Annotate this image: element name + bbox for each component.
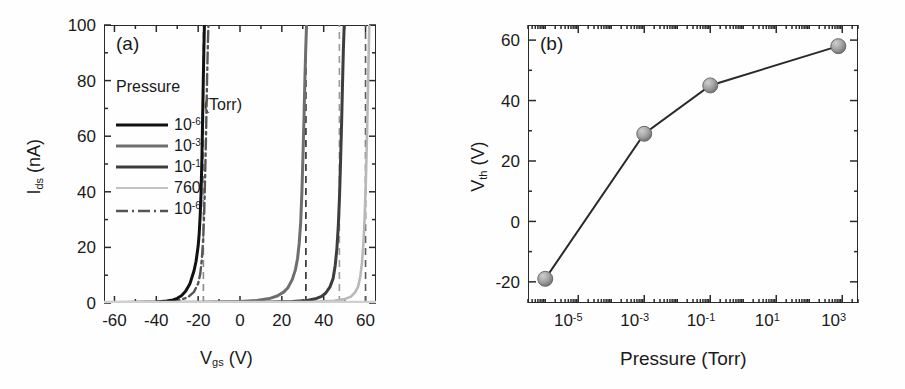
panel-a-legend: Pressure (Torr) 10-6 10-3 10-1 <box>116 78 248 220</box>
legend-item-4[interactable]: 10-6 <box>116 199 248 220</box>
panel-a-y-axis-title-main: I <box>24 190 44 195</box>
panel-a-y-axis-title-unit: (nA) <box>24 139 44 178</box>
panel-a-xtick-40: 40 <box>314 312 333 329</box>
panel-a-xtick-m20: -20 <box>186 312 211 329</box>
panel-b-ytick-40: 40 <box>470 92 520 109</box>
panel-a-ytick-20: 20 <box>46 239 96 256</box>
legend-title-line1: Pressure <box>116 78 248 96</box>
panel-a-x-axis-title-unit: (V) <box>224 348 253 368</box>
panel-a: (a) 0 20 40 60 80 100 -60 -40 -20 0 20 4… <box>0 0 470 389</box>
panel-b-xtick-4: 103 <box>821 312 846 329</box>
panel-a-xtick-60: 60 <box>356 312 375 329</box>
legend-swatch-icon-1 <box>116 140 168 152</box>
legend-swatch-icon-3 <box>116 182 168 194</box>
panel-a-ytick-60: 60 <box>46 128 96 145</box>
panel-a-x-axis-title: Vgs (V) <box>200 349 253 368</box>
panel-b-xtick-2: 10-1 <box>687 312 716 329</box>
legend-label-4: 10-6 <box>174 201 201 217</box>
panel-b-ytick-60: 60 <box>470 32 520 49</box>
panel-a-xtick-0: 0 <box>235 312 244 329</box>
panel-b-ytick-m20: -20 <box>470 274 520 291</box>
panel-b-xtick-0: 10-5 <box>554 312 583 329</box>
panel-a-x-axis-title-sub: gs <box>212 356 224 368</box>
panel-a-ytick-80: 80 <box>46 72 96 89</box>
legend-label-0: 10-6 <box>174 117 201 133</box>
panel-b: (b) -20 0 20 40 60 10-5 10-3 10-1 101 10… <box>470 0 905 389</box>
panel-b-plot-frame <box>528 25 858 303</box>
panel-b-y-axis-title-main: V <box>468 180 488 192</box>
panel-a-x-axis-title-main: V <box>200 348 212 368</box>
panel-b-x-axis-title: Pressure (Torr) <box>620 349 747 368</box>
legend-swatch-icon-2 <box>116 161 168 173</box>
figure-root: (a) 0 20 40 60 80 100 -60 -40 -20 0 20 4… <box>0 0 905 389</box>
panel-a-label: (a) <box>116 33 139 55</box>
panel-a-y-axis-title-sub: ds <box>33 178 45 190</box>
panel-b-y-axis-title-unit: (V) <box>468 142 488 171</box>
panel-a-xtick-m40: -40 <box>144 312 169 329</box>
panel-b-xtick-3: 101 <box>755 312 780 329</box>
panel-b-y-axis-title: Vth (V) <box>469 122 488 212</box>
legend-item-3[interactable]: 760 <box>116 178 248 199</box>
panel-b-label: (b) <box>540 33 563 55</box>
legend-label-3: 760 <box>174 180 201 196</box>
panel-a-ytick-40: 40 <box>46 183 96 200</box>
legend-swatch-icon-0 <box>116 119 168 131</box>
panel-a-y-axis-title: Ids (nA) <box>25 122 44 212</box>
panel-a-xtick-20: 20 <box>272 312 291 329</box>
legend-item-1[interactable]: 10-3 <box>116 136 248 157</box>
legend-label-2: 10-1 <box>174 159 201 175</box>
legend-item-0[interactable]: 10-6 <box>116 115 248 136</box>
legend-item-2[interactable]: 10-1 <box>116 157 248 178</box>
panel-a-ytick-100: 100 <box>46 17 96 34</box>
panel-b-y-axis-title-sub: th <box>477 171 489 180</box>
panel-b-ytick-0: 0 <box>470 213 520 230</box>
legend-title-line2: (Torr) <box>116 96 248 114</box>
legend-swatch-icon-4 <box>116 203 168 215</box>
panel-a-ytick-0: 0 <box>46 295 96 312</box>
legend-label-1: 10-3 <box>174 138 201 154</box>
panel-b-xtick-1: 10-3 <box>620 312 649 329</box>
panel-a-xtick-m60: -60 <box>102 312 127 329</box>
